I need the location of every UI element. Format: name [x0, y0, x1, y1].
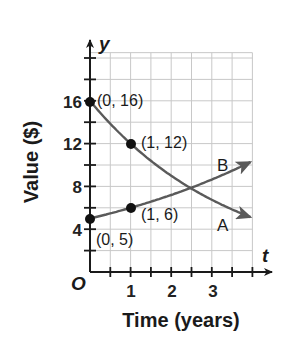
point-a0-label: (0, 16): [97, 92, 143, 109]
origin-label: O: [71, 273, 86, 294]
y-tick-16: 16: [63, 93, 82, 112]
point-b0: [85, 214, 95, 224]
y-tick-4: 4: [73, 221, 83, 240]
x-tick-1: 1: [126, 282, 135, 301]
curve-a-label: A: [217, 216, 229, 235]
y-tick-8: 8: [73, 178, 82, 197]
point-b1-label: (1, 6): [141, 206, 178, 223]
exponential-chart: (0, 16) (1, 12) (0, 5) (1, 6) B A 16 12 …: [0, 0, 290, 352]
x-tick-3: 3: [208, 282, 217, 301]
x-variable-label: t: [262, 245, 269, 266]
curve-b-label: B: [217, 156, 228, 175]
point-a0: [85, 97, 95, 107]
y-tick-12: 12: [63, 135, 82, 154]
point-a1: [126, 139, 136, 149]
y-variable-label: y: [98, 33, 111, 54]
point-a1-label: (1, 12): [141, 134, 187, 151]
x-axis-title: Time (years): [122, 309, 239, 331]
point-b1: [126, 203, 136, 213]
x-tick-2: 2: [167, 282, 176, 301]
point-b0-label: (0, 5): [96, 231, 133, 248]
y-axis-title: Value ($): [20, 121, 42, 203]
